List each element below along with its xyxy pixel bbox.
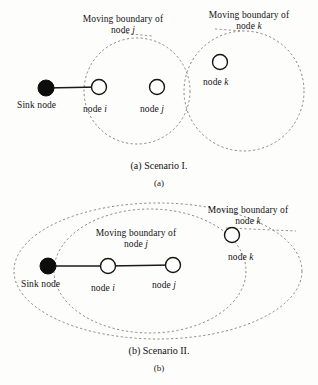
subcaption-scenario-b: (b) xyxy=(0,363,318,373)
node-j-label-a-prefix: node xyxy=(140,104,159,114)
boundary-label-node-j-b: Moving boundary of node j xyxy=(82,228,190,250)
node-j-label-a-symbol: j xyxy=(161,104,164,114)
node-i-label-b-symbol: i xyxy=(112,283,115,293)
boundary-label-node-j-b-symbol: j xyxy=(145,239,148,249)
boundary-label-node-j-b-prefix: node xyxy=(124,239,143,249)
leader-line-node-k-b xyxy=(226,228,296,231)
node-i-label-b: node i xyxy=(91,283,115,294)
boundary-label-node-k-b-symbol: k xyxy=(257,216,261,226)
boundary-label-node-k-b: Moving boundary of node k xyxy=(188,205,308,227)
node-k-label-a-prefix: node xyxy=(203,77,222,87)
node-j-b xyxy=(166,258,181,273)
node-k-label-b-symbol: k xyxy=(249,252,253,262)
caption-scenario-b: (b) Scenario II. xyxy=(0,345,318,356)
boundary-circle-node-k-a xyxy=(184,31,304,151)
boundary-label-node-k-a-line1: Moving boundary of xyxy=(190,10,308,21)
boundary-label-node-j-b-line1: Moving boundary of xyxy=(82,228,190,239)
node-j-label-a: node j xyxy=(140,104,164,115)
boundary-label-node-k-b-prefix: node xyxy=(235,216,254,226)
boundary-label-node-j-b-line2: node j xyxy=(82,239,190,250)
boundary-label-node-j-a-line1: Moving boundary of xyxy=(68,14,178,25)
boundary-label-node-k-a: Moving boundary of node k xyxy=(190,10,308,32)
sink-node-label-a: Sink node xyxy=(17,100,56,111)
node-k-a xyxy=(213,55,228,70)
sink-node-label-b: Sink node xyxy=(21,279,60,290)
boundary-label-node-j-a: Moving boundary of node j xyxy=(68,14,178,36)
node-j-a xyxy=(150,80,165,95)
sink-node-label-a-text: Sink node xyxy=(17,100,56,110)
node-i-b xyxy=(101,259,116,274)
node-i-label-a-prefix: node xyxy=(83,104,102,114)
node-k-b xyxy=(225,228,240,243)
node-j-label-b: node j xyxy=(152,280,176,291)
boundary-circle-node-j-a xyxy=(84,38,190,144)
diagram-canvas xyxy=(0,0,318,385)
caption-scenario-a: (a) Scenario I. xyxy=(0,160,318,171)
link-node-i-to-node-j-b xyxy=(108,265,173,266)
boundary-label-node-k-a-symbol: k xyxy=(258,21,262,31)
boundary-label-node-j-a-symbol: j xyxy=(132,25,135,35)
node-k-label-b: node k xyxy=(228,252,254,263)
subcaption-scenario-a: (a) xyxy=(0,178,318,188)
node-j-label-b-symbol: j xyxy=(173,280,176,290)
sink-node-b xyxy=(40,258,56,274)
figure-page: Moving boundary of node j Moving boundar… xyxy=(0,0,318,385)
boundary-label-node-k-a-prefix: node xyxy=(236,21,255,31)
node-i-a xyxy=(92,80,107,95)
node-i-label-a-symbol: i xyxy=(104,104,107,114)
link-sink-to-node-i-a xyxy=(46,87,99,88)
sink-node-label-b-text: Sink node xyxy=(21,279,60,289)
boundary-label-node-k-b-line2: node k xyxy=(188,216,308,227)
node-k-label-a: node k xyxy=(203,77,229,88)
node-i-label-a: node i xyxy=(83,104,107,115)
node-i-label-b-prefix: node xyxy=(91,283,110,293)
boundary-label-node-j-a-prefix: node xyxy=(111,25,130,35)
boundary-label-node-j-a-line2: node j xyxy=(68,25,178,36)
node-k-label-b-prefix: node xyxy=(228,252,247,262)
boundary-label-node-k-b-line1: Moving boundary of xyxy=(188,205,308,216)
boundary-label-node-k-a-line2: node k xyxy=(190,21,308,32)
node-j-label-b-prefix: node xyxy=(152,280,171,290)
sink-node-a xyxy=(38,80,54,96)
node-k-label-a-symbol: k xyxy=(224,77,228,87)
